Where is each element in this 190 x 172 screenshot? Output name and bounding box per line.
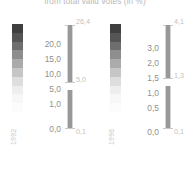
year-label-1992: 1992 (10, 129, 17, 145)
gradient-legend-band (110, 24, 121, 33)
range-bar-1996[interactable]: 4,1 1,3 0,1 (156, 20, 190, 140)
bar-value-min: 0,1 (174, 128, 184, 136)
gradient-legend-band (110, 68, 121, 77)
gradient-legend-band (12, 103, 23, 112)
gradient-legend-1992 (12, 24, 23, 112)
gradient-legend-band (110, 42, 121, 51)
bar-segment-upper[interactable] (67, 25, 73, 82)
bar-cap-mid (163, 78, 173, 79)
gradient-legend-band (110, 50, 121, 59)
gradient-legend-band (12, 24, 23, 33)
chart-panel-1992: 20,0 15,0 10,0 5,0 1,0 0,0 26,4 5,0 0,1 … (0, 0, 95, 172)
range-bar-1992[interactable]: 26,4 5,0 0,1 (58, 20, 92, 140)
gradient-legend-band (110, 94, 121, 103)
bar-value-max: 26,4 (76, 18, 90, 26)
bar-value-min: 0,1 (76, 128, 86, 136)
gradient-legend-band (110, 77, 121, 86)
axis-tick-labels-1996: 3,0 2,0 1,5 1,0 0,5 0,0 (123, 20, 159, 140)
bar-segment-upper[interactable] (165, 25, 171, 78)
bar-cap-bottom (65, 128, 75, 129)
bar-value-max: 4,1 (174, 18, 184, 26)
gradient-legend-band (12, 77, 23, 86)
bar-cap-bottom (163, 128, 173, 129)
gradient-legend-band (12, 50, 23, 59)
gradient-legend-band (110, 86, 121, 95)
gradient-legend-band (12, 94, 23, 103)
gradient-legend-band (110, 103, 121, 112)
bar-value-mid: 5,0 (76, 76, 86, 84)
year-label-1996: 1996 (108, 129, 115, 145)
chart-panel-1996: 3,0 2,0 1,5 1,0 0,5 0,0 4,1 1,3 0,1 1996 (98, 0, 190, 172)
bar-value-mid: 1,3 (174, 72, 184, 80)
gradient-legend-1996 (110, 24, 121, 112)
gradient-legend-band (12, 42, 23, 51)
axis-tick-labels-1992: 20,0 15,0 10,0 5,0 1,0 0,0 (25, 20, 61, 140)
gradient-legend-band (12, 33, 23, 42)
bar-segment-lower[interactable] (165, 86, 171, 128)
gradient-legend-band (12, 68, 23, 77)
gradient-legend-band (12, 86, 23, 95)
bar-cap-mid (65, 82, 75, 83)
gradient-legend-band (110, 33, 121, 42)
gradient-legend-band (12, 59, 23, 68)
chart-root: from total valid votes (in %) 20,0 15,0 … (0, 0, 190, 172)
bar-segment-lower[interactable] (67, 90, 73, 128)
gradient-legend-band (110, 59, 121, 68)
